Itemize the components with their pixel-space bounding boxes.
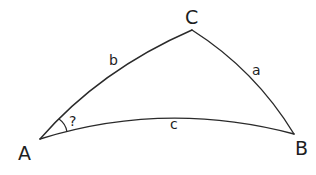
spherical-triangle-diagram: A B C b a c ? xyxy=(0,0,316,175)
side-label-c: c xyxy=(170,116,178,132)
vertex-label-a: A xyxy=(18,142,31,164)
side-c-arc xyxy=(40,118,294,139)
angle-a-marker-arc xyxy=(59,119,67,132)
vertex-label-b: B xyxy=(295,137,308,159)
vertex-label-c: C xyxy=(185,6,198,28)
angle-a-unknown-label: ? xyxy=(69,113,76,129)
side-a-arc xyxy=(192,30,294,134)
side-label-b: b xyxy=(109,52,118,68)
side-label-a: a xyxy=(252,62,261,78)
